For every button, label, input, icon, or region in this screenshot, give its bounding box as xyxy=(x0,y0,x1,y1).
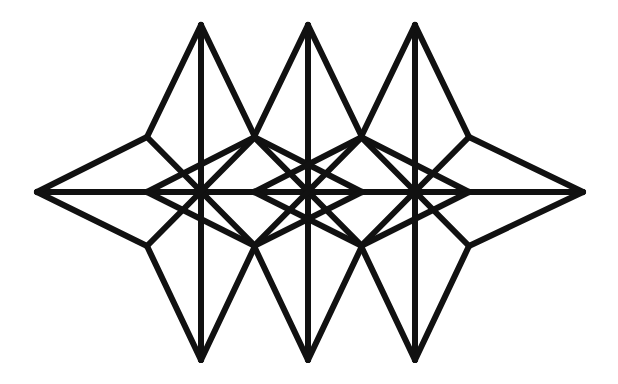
three-star-diagram xyxy=(0,0,618,384)
